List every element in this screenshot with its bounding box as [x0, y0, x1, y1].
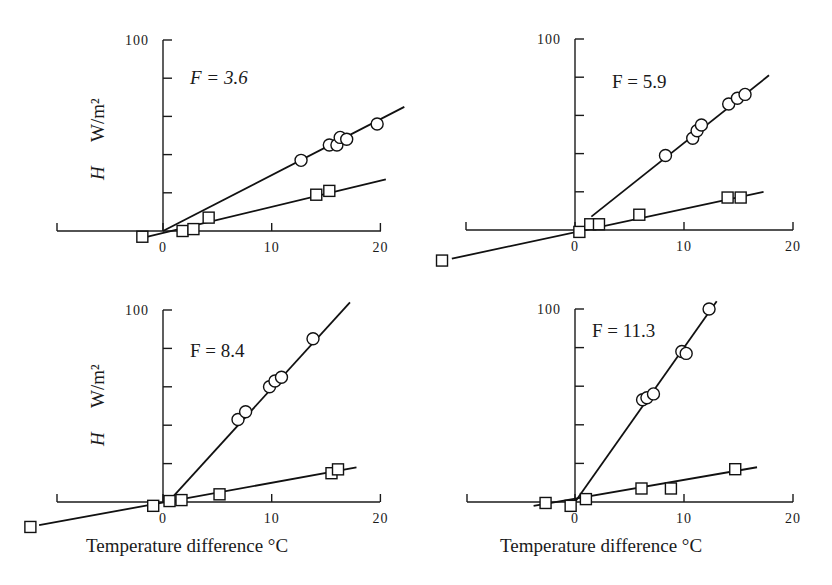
panel-title-f-8-4: F = 8.4	[190, 340, 245, 361]
x-tick-label: 0	[571, 511, 579, 526]
x-tick-label: 0	[571, 239, 579, 254]
square-data-point	[214, 489, 225, 500]
y-tick-label: 100	[125, 303, 149, 318]
square-data-point	[164, 496, 175, 507]
x-tick-label: 20	[785, 511, 801, 526]
panel-title-f-11-3: F = 11.3	[592, 320, 655, 341]
x-tick-label: 0	[159, 511, 167, 526]
square-data-point	[565, 500, 576, 511]
square-data-point	[593, 219, 604, 230]
square-data-point	[25, 521, 36, 532]
square-data-point	[735, 192, 746, 203]
circle-data-point	[371, 118, 383, 130]
y-tick-label: 100	[125, 33, 149, 48]
circle-fit-line	[172, 302, 350, 498]
y-axis-label-h: H	[87, 431, 108, 447]
x-tick-label: 20	[372, 511, 388, 526]
y-axis-label-h: H	[87, 165, 108, 181]
square-data-point	[540, 497, 551, 508]
square-data-point	[730, 464, 741, 475]
square-data-point	[137, 231, 148, 242]
square-data-point	[324, 185, 335, 196]
square-data-point	[636, 483, 647, 494]
circle-data-point	[703, 303, 715, 315]
panel-f-8-4: 01020100	[25, 302, 389, 532]
y-axis-label-units: W/m²	[87, 98, 108, 142]
circle-data-point	[341, 133, 353, 145]
circle-data-point	[695, 119, 707, 131]
x-tick-label: 10	[676, 239, 692, 254]
square-data-point	[574, 226, 585, 237]
square-fit-line	[452, 192, 764, 259]
panel-f-5-9: 01020100	[437, 32, 801, 266]
y-tick-label: 100	[537, 302, 561, 317]
x-tick-label: 10	[676, 511, 692, 526]
square-fit-line	[39, 467, 356, 525]
four-panel-scatter-chart: 01020100 01020100 01020100 01020100 F = …	[0, 0, 832, 585]
x-tick-label: 0	[159, 240, 167, 255]
square-data-point	[634, 209, 645, 220]
square-data-point	[311, 189, 322, 200]
x-axis-label-right: Temperature difference °C	[500, 535, 702, 556]
x-tick-label: 20	[372, 240, 388, 255]
x-axis-label-left: Temperature difference °C	[86, 535, 288, 556]
circle-data-point	[295, 154, 307, 166]
square-data-point	[437, 255, 448, 266]
square-data-point	[722, 192, 733, 203]
circle-data-point	[739, 88, 751, 100]
x-tick-label: 10	[264, 511, 280, 526]
y-axis-label-top: H W/m²	[87, 98, 108, 181]
circle-fit-line	[163, 107, 404, 231]
figure: 01020100 01020100 01020100 01020100 F = …	[0, 0, 832, 585]
y-axis-label-units: W/m²	[87, 364, 108, 408]
square-data-point	[148, 500, 159, 511]
square-data-point	[665, 483, 676, 494]
square-data-point	[333, 464, 344, 475]
panel-title-f-5-9: F = 5.9	[612, 71, 667, 92]
circle-data-point	[307, 333, 319, 345]
circle-data-point	[647, 388, 659, 400]
square-data-point	[203, 212, 214, 223]
x-tick-label: 10	[264, 240, 280, 255]
circle-data-point	[659, 150, 671, 162]
square-data-point	[580, 494, 591, 505]
y-axis-label-bottom: H W/m²	[87, 364, 108, 447]
square-data-point	[176, 495, 187, 506]
circle-data-point	[680, 347, 692, 359]
circle-data-point	[275, 371, 287, 383]
square-data-point	[177, 226, 188, 237]
square-data-point	[188, 224, 199, 235]
y-tick-label: 100	[537, 32, 561, 47]
panel-title-f-3-6: F = 3.6	[189, 67, 248, 88]
x-tick-label: 20	[785, 239, 801, 254]
circle-data-point	[240, 406, 252, 418]
